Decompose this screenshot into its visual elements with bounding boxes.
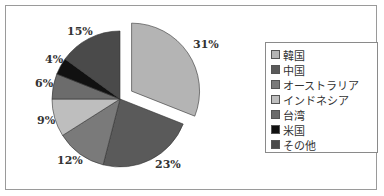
label-other: 15%	[67, 25, 93, 38]
label-australia: 12%	[57, 154, 83, 167]
legend-label: その他	[283, 137, 316, 153]
label-usa: 4%	[45, 53, 63, 66]
legend-label: 米国	[283, 122, 305, 138]
legend-item-indonesia: インドネシア	[271, 92, 377, 107]
legend-item-korea: 韓国	[271, 47, 377, 62]
swatch-china	[271, 65, 280, 74]
swatch-korea	[271, 50, 280, 59]
legend-item-taiwan: 台湾	[271, 107, 377, 122]
legend-item-australia: オーストラリア	[271, 77, 377, 92]
pie-slice-0	[132, 23, 200, 116]
swatch-taiwan	[271, 110, 280, 119]
label-korea: 31%	[193, 38, 219, 51]
swatch-usa	[271, 125, 280, 134]
legend-label: 台湾	[283, 107, 305, 123]
legend-label: オーストラリア	[283, 77, 359, 93]
legend-label: インドネシア	[283, 92, 349, 108]
label-taiwan: 6%	[35, 77, 53, 90]
legend-label: 中国	[283, 62, 305, 78]
label-china: 23%	[155, 158, 181, 171]
legend-item-other: その他	[271, 137, 377, 152]
legend-label: 韓国	[283, 47, 305, 63]
legend-item-usa: 米国	[271, 122, 377, 137]
swatch-indonesia	[271, 95, 280, 104]
swatch-other	[271, 140, 280, 149]
legend: 韓国 中国 オーストラリア インドネシア 台湾 米国 その他	[265, 42, 378, 153]
label-indonesia: 9%	[37, 114, 55, 127]
swatch-australia	[271, 80, 280, 89]
legend-item-china: 中国	[271, 62, 377, 77]
